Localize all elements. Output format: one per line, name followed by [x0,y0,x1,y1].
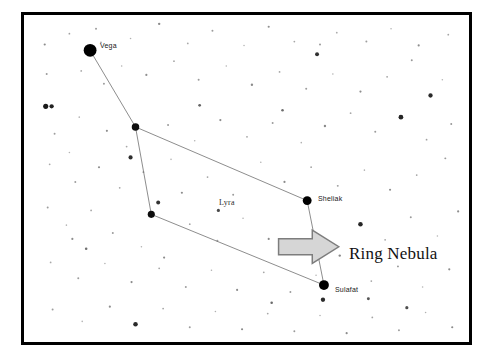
background-star [305,88,307,90]
background-star [100,42,102,44]
background-star [232,194,234,196]
background-star [310,166,312,168]
background-star [69,152,71,154]
background-star [133,322,138,327]
background-star [398,329,400,331]
background-star [225,65,227,67]
background-star [46,73,48,75]
background-star [194,140,196,142]
background-star [411,59,413,61]
background-star [80,70,82,72]
background-star [267,313,269,315]
background-star [119,187,121,189]
background-star [444,157,446,159]
background-star [428,93,432,97]
background-star [263,271,265,273]
background-star [156,201,160,205]
background-star [71,238,73,240]
background-star [181,192,183,194]
background-star [126,146,128,148]
background-star [198,104,201,107]
background-star [270,301,273,304]
background-star [289,291,291,293]
background-star [158,23,160,25]
star-chart-diagram: VegaSheliakSulafatLyraRing Nebula [0,0,493,359]
background-star [426,139,428,141]
background-star [251,84,253,86]
background-star [321,298,325,302]
background-star [189,326,191,328]
background-star [47,206,49,208]
background-star [315,52,319,56]
background-star [324,125,326,127]
background-star [457,210,459,212]
background-star [268,26,270,28]
background-star [283,181,285,183]
background-star [389,189,391,191]
background-star [49,104,53,108]
background-star [451,326,453,328]
star-field-canvas [24,15,469,342]
background-star [319,43,321,45]
background-star [128,155,132,159]
background-star [386,76,388,78]
background-star [390,28,392,30]
sky-frame: VegaSheliakSulafatLyraRing Nebula [21,12,472,345]
background-star [121,65,123,67]
background-star [109,306,111,308]
background-star [167,124,169,126]
background-star-group [43,23,459,335]
background-star [281,109,284,112]
background-star [49,163,51,165]
background-star [246,136,248,138]
background-star [442,79,444,81]
background-star [418,44,420,46]
annotation-arrow-group [279,230,339,263]
background-star [359,91,361,93]
background-star [54,133,56,135]
background-star [52,309,54,311]
asterism-line [135,127,151,214]
background-star [104,263,106,265]
background-star [332,73,334,75]
background-star [437,235,439,237]
background-star [187,43,189,45]
background-star [130,38,132,40]
background-star [337,185,339,187]
background-star [170,159,172,161]
background-star [219,119,221,121]
background-star [243,45,245,47]
asterism-line [90,50,135,127]
background-star [293,41,295,43]
background-star [217,209,220,212]
background-star [293,330,295,332]
background-star [350,112,352,114]
background-star [90,210,92,212]
background-star [215,311,217,313]
asterism-vertex-star [132,123,139,130]
background-star [85,247,88,250]
background-star [77,277,79,279]
background-star [370,280,372,282]
right-block-arrow-icon [279,230,339,263]
background-star [198,79,200,81]
background-star [50,262,52,264]
star-vega [84,44,97,57]
background-star [374,131,376,133]
background-star [185,286,187,288]
background-star [371,317,373,319]
background-star [364,169,366,171]
background-star [319,315,321,317]
background-star [158,267,160,269]
background-star [81,321,83,323]
background-star [410,216,412,218]
background-star [367,297,370,300]
asterism-vertex-star [148,211,155,218]
background-star [145,74,147,76]
background-star [163,256,165,258]
background-star [98,166,100,168]
background-star [358,222,363,227]
background-star [242,217,244,219]
asterism-line [135,127,307,201]
background-star [78,116,80,118]
